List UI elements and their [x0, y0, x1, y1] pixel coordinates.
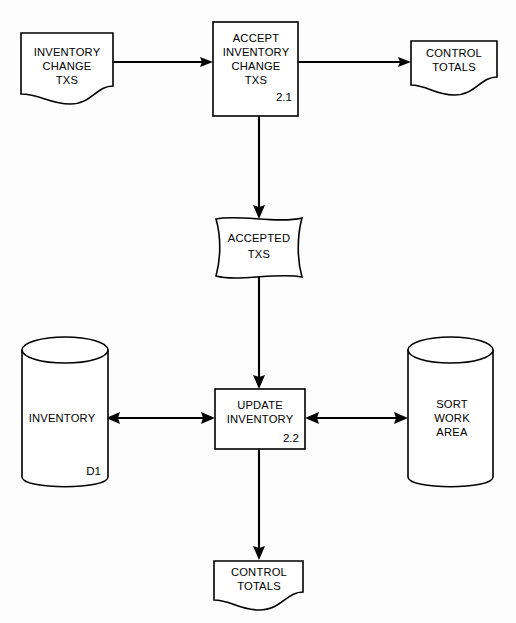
node-label-line2: TXS [248, 248, 270, 260]
flow-inventory-store-update-bidirectional [106, 412, 215, 424]
flow-accept-to-control-totals [298, 57, 411, 67]
node-label-line1: SORT [436, 398, 468, 410]
node-label-line3: CHANGE [231, 60, 280, 72]
node-label-line2: INVENTORY [227, 413, 294, 425]
node-label-line1: CONTROL [426, 47, 482, 59]
store-number: D1 [86, 464, 101, 477]
node-label-line1: INVENTORY [29, 412, 96, 424]
node-label-line1: INVENTORY [34, 46, 101, 58]
node-label-line3: TXS [56, 74, 78, 86]
node-label-line2: TOTALS [237, 580, 281, 592]
node-label-line1: CONTROL [231, 566, 287, 578]
process-number: 2.2 [283, 431, 299, 444]
node-control-totals-top[interactable]: CONTROL TOTALS [411, 41, 497, 95]
flow-update-to-control-totals [253, 449, 265, 560]
node-label-line1: ACCEPT [233, 32, 280, 44]
node-label-line2: TOTALS [432, 61, 476, 73]
diagram-canvas: INVENTORY CHANGE TXS ACCEPT INVENTORY CH… [0, 0, 516, 623]
flow-inventory-change-to-accept [113, 57, 213, 67]
flow-accepted-txs-to-update [253, 274, 265, 389]
node-label-line4: TXS [245, 74, 267, 86]
node-label-line2: WORK [434, 412, 470, 424]
node-label-line1: ACCEPTED [228, 232, 291, 244]
node-label-line2: INVENTORY [223, 46, 290, 58]
node-label-line1: UPDATE [237, 399, 283, 411]
cylinder-top-ellipse [408, 337, 493, 363]
flow-accept-to-accepted-txs [253, 116, 265, 219]
cylinder-top-ellipse [22, 337, 108, 363]
node-update-inventory-process[interactable]: UPDATE INVENTORY 2.2 [215, 389, 305, 449]
node-inventory-change-txs[interactable]: INVENTORY CHANGE TXS [21, 33, 113, 104]
node-inventory-store[interactable]: INVENTORY D1 [22, 337, 108, 487]
process-number: 2.1 [276, 90, 292, 103]
flow-update-sort-work-area-bidirectional [305, 412, 408, 424]
data-flow-diagram: INVENTORY CHANGE TXS ACCEPT INVENTORY CH… [0, 0, 516, 623]
node-control-totals-bottom[interactable]: CONTROL TOTALS [214, 561, 303, 610]
node-accepted-txs[interactable]: ACCEPTED TXS [216, 218, 302, 278]
node-sort-work-area[interactable]: SORT WORK AREA [408, 337, 493, 487]
node-label-line3: AREA [436, 426, 468, 438]
node-accept-inventory-change-txs-process[interactable]: ACCEPT INVENTORY CHANGE TXS 2.1 [213, 22, 298, 116]
node-label-line2: CHANGE [42, 60, 91, 72]
